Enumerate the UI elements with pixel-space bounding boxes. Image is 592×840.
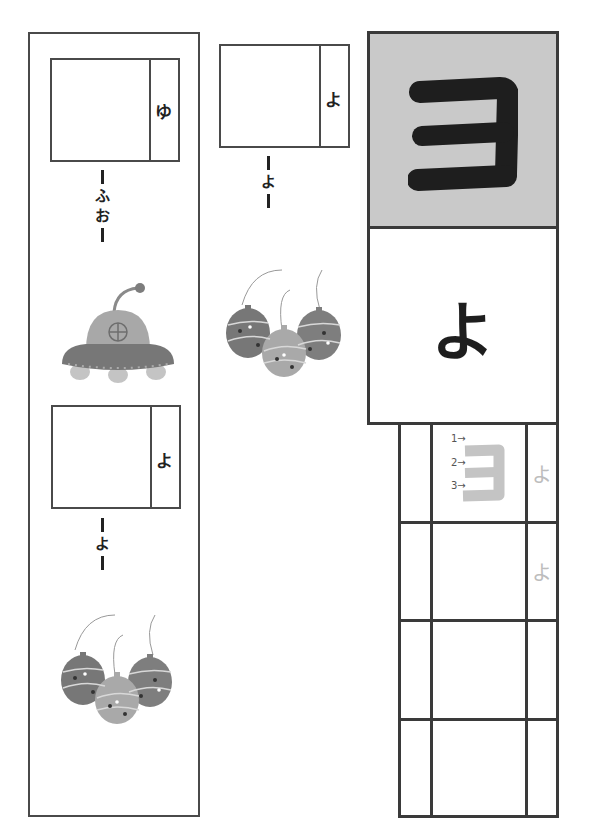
dash-top [267,156,270,170]
trace-kana: よ [532,459,552,488]
hiragana-large: よ [431,280,495,372]
dash-bottom [101,228,104,242]
write-box-yo-middle[interactable]: よ [219,44,350,148]
katakana-yo-glyph [408,74,518,194]
dash-bottom [101,556,104,570]
practice-cell-3[interactable] [433,622,525,718]
katakana-display: ヨ [367,31,559,229]
trace-cell-2[interactable]: よ [528,524,556,619]
practice-cell-4[interactable] [433,721,525,815]
dash-top [101,518,104,532]
side-kana: よ [150,447,179,472]
reading-char: お [95,208,110,224]
side-kana: ゆ [149,98,178,123]
trace-cell-1[interactable]: よ [528,425,556,521]
practice-cell-2[interactable] [433,524,525,619]
dash-top [101,170,104,184]
reading-yo-left: よ [82,518,122,570]
trace-kana: よ [532,557,552,586]
hiragana-display: よ [367,226,559,425]
practice-cell-1[interactable]: 1→ 2→ 3→ [433,425,525,521]
reading-yo-middle: よ [248,156,288,208]
reading-char: よ [95,536,110,552]
ufo-icon [58,280,178,386]
reading-fuo: ふ お [82,170,122,242]
stroke-label-2: 2→ [451,457,466,468]
write-box-yu[interactable]: ゆ [50,58,180,162]
write-box-yo-left[interactable]: よ [51,405,181,509]
stroke-label-1: 1→ [451,433,466,444]
yoyo-balloons-icon [222,265,347,380]
side-kana: よ [319,86,348,111]
stroke-label-3: 3→ [451,480,466,491]
reading-char: よ [261,174,276,190]
yoyo-balloons-icon [55,610,180,725]
stroke-order-guide-icon [451,441,511,503]
reading-char: ふ [95,188,110,204]
dash-bottom [267,194,270,208]
